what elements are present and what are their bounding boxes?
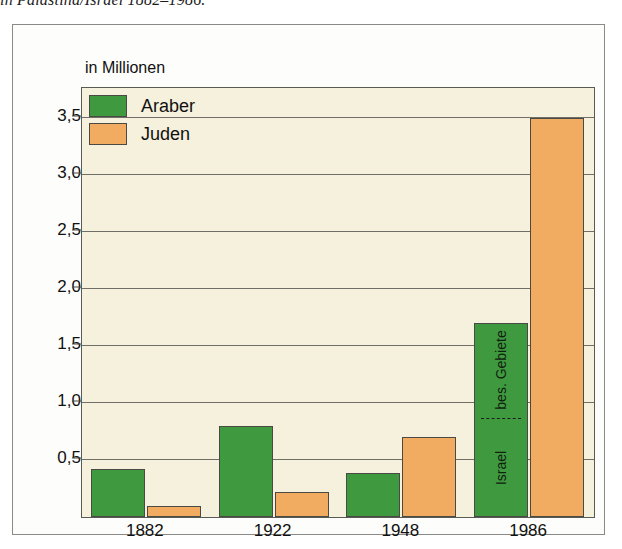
bar-juden-1882 bbox=[147, 506, 201, 517]
bar-segment-divider bbox=[481, 418, 521, 419]
gridline bbox=[82, 288, 594, 289]
bar-araber-1948 bbox=[346, 473, 400, 518]
legend-label: Araber bbox=[141, 96, 195, 117]
y-axis-tick-mark bbox=[72, 172, 81, 173]
y-axis-tick-mark bbox=[72, 229, 81, 230]
y-axis-tick-mark bbox=[72, 115, 81, 116]
figure-caption: in Palästina/Israel 1882–1986. bbox=[0, 0, 622, 9]
legend-item-araber: Araber bbox=[89, 95, 195, 117]
y-axis-tick-mark bbox=[72, 457, 81, 458]
araber-swatch bbox=[89, 95, 127, 117]
x-axis-tick-label: 1948 bbox=[381, 521, 419, 541]
juden-swatch bbox=[89, 123, 127, 145]
bar-juden-1948 bbox=[402, 437, 456, 517]
x-axis-tick-label: 1882 bbox=[126, 521, 164, 541]
y-axis-tick-mark bbox=[72, 343, 81, 344]
bar-araber-1882 bbox=[91, 469, 145, 517]
bar-segment-label-upper: bes. Gebiete bbox=[493, 331, 509, 410]
bar-juden-1986 bbox=[530, 118, 584, 517]
figure-frame: in Millionen 0,51,01,52,02,53,03,5 Israe… bbox=[12, 24, 605, 535]
y-axis-unit-label: in Millionen bbox=[85, 59, 165, 77]
bar-araber-1922 bbox=[219, 426, 273, 517]
bar-juden-1922 bbox=[275, 492, 329, 517]
x-axis-tick-label: 1986 bbox=[509, 521, 547, 541]
x-axis: 1882192219481986 bbox=[81, 521, 595, 549]
gridline bbox=[82, 174, 594, 175]
bar-araber-1986: Israelbes. Gebiete bbox=[474, 323, 528, 517]
x-axis-tick-label: 1922 bbox=[254, 521, 292, 541]
legend-item-juden: Juden bbox=[89, 123, 195, 145]
chart-legend: AraberJuden bbox=[89, 95, 195, 145]
bar-segment-label-lower: Israel bbox=[493, 450, 509, 484]
plot-inner: Israelbes. Gebiete bbox=[82, 88, 594, 517]
gridline bbox=[82, 231, 594, 232]
plot-area: Israelbes. Gebiete bbox=[81, 87, 595, 518]
y-axis-tick-mark bbox=[72, 286, 81, 287]
legend-label: Juden bbox=[141, 124, 190, 145]
y-axis-tick-mark bbox=[72, 400, 81, 401]
